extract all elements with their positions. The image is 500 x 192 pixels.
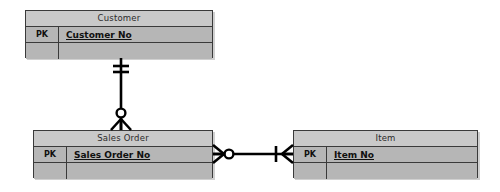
entity-customer[interactable]: Customer PK Customer No <box>25 10 213 58</box>
entity-item-row-0[interactable]: PK Item No <box>294 147 477 163</box>
entity-sales-order-title: Sales Order <box>34 131 212 147</box>
entity-customer-title: Customer <box>26 11 212 27</box>
entity-item-row-1-attribute <box>327 163 477 179</box>
entity-sales-order-row-1-key <box>34 163 67 179</box>
cardinality-zero-circle-left <box>225 150 234 159</box>
entity-customer-row-0[interactable]: PK Customer No <box>26 27 212 43</box>
cardinality-zero-circle <box>117 109 126 118</box>
entity-item-row-1[interactable] <box>294 163 477 179</box>
relationship-customer-to-sales-order <box>111 58 131 130</box>
entity-customer-row-1[interactable] <box>26 43 212 59</box>
entity-customer-row-0-key: PK <box>26 27 59 42</box>
entity-sales-order-row-0-attribute: Sales Order No <box>67 147 212 162</box>
entity-sales-order-row-0-key: PK <box>34 147 67 162</box>
entity-customer-row-0-attribute: Customer No <box>59 27 212 42</box>
entity-item[interactable]: Item PK Item No <box>293 130 478 178</box>
entity-sales-order-row-0[interactable]: PK Sales Order No <box>34 147 212 163</box>
crowsfoot-left-prong-lower <box>213 154 224 163</box>
entity-item-row-0-attribute: Item No <box>327 147 477 162</box>
entity-item-row-1-key <box>294 163 327 179</box>
entity-customer-row-1-key <box>26 43 59 59</box>
entity-item-title: Item <box>294 131 477 147</box>
crowsfoot-prong-left <box>111 119 121 130</box>
entity-sales-order[interactable]: Sales Order PK Sales Order No <box>33 130 213 178</box>
crowsfoot-prong-right <box>121 119 131 130</box>
crowsfoot-right-prong-upper <box>282 145 293 154</box>
entity-sales-order-row-1[interactable] <box>34 163 212 179</box>
entity-customer-row-1-attribute <box>59 43 212 59</box>
crowsfoot-right-prong-lower <box>282 154 293 163</box>
entity-item-row-0-key: PK <box>294 147 327 162</box>
entity-sales-order-row-1-attribute <box>67 163 212 179</box>
relationship-sales-order-to-item <box>213 145 293 163</box>
crowsfoot-left-prong-upper <box>213 145 224 154</box>
er-diagram-canvas: Customer PK Customer No Sales Order PK S… <box>0 0 500 192</box>
